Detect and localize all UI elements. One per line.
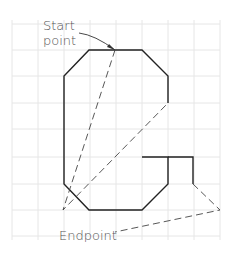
start-label-line2: point bbox=[43, 33, 76, 48]
shape-hook bbox=[168, 157, 193, 184]
cad-drawing: Start point Endpoint bbox=[0, 0, 231, 253]
grid bbox=[12, 20, 220, 240]
endpoint-label: Endpoint bbox=[59, 228, 117, 243]
start-label-line1: Start bbox=[43, 18, 75, 33]
drawing-canvas: Start point Endpoint bbox=[0, 0, 231, 253]
